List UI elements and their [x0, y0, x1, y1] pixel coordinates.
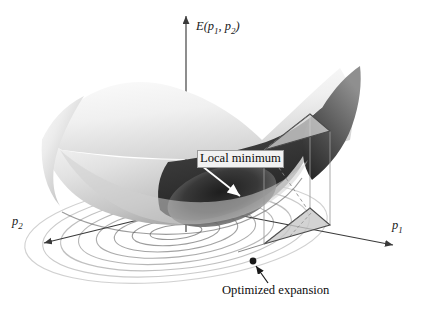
local-minimum-label: Local minimum: [197, 150, 284, 168]
p2-axis-label-sub: 2: [18, 221, 23, 231]
optimized-expansion-arrow: [256, 266, 268, 283]
optimized-expansion-callout: [250, 258, 268, 283]
energy-surface-figure: E(p1, p2) p2 p1 Local minimum Optimized …: [0, 0, 421, 313]
energy-axis-label-main: E(: [196, 19, 208, 33]
energy-axis-label-close: ): [236, 19, 240, 33]
p1-axis-label-sub: 1: [398, 225, 403, 235]
p2-axis-label: p2: [12, 215, 23, 231]
optimized-expansion-label: Optimized expansion: [222, 284, 329, 297]
p1-axis-label: p1: [392, 219, 403, 235]
energy-axis-label: E(p1, p2): [196, 20, 240, 36]
optimized-expansion-marker: [250, 258, 257, 265]
